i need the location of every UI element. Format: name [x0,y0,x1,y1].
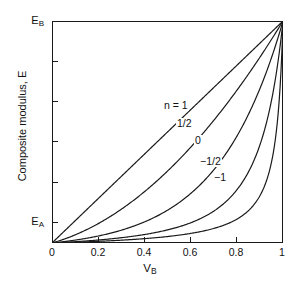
y-tick-3 [52,182,58,183]
x-ticklabel-0: 0 [32,246,72,258]
y-tick-0 [52,61,58,62]
x-ticklabel-1: 0.2 [78,246,118,258]
x-tick-1 [98,237,99,243]
y-tick-4 [52,222,58,223]
x-axis-title-subscript: B [151,266,157,276]
curve-label-neghalf: −1/2 [199,156,222,167]
x-tick-4 [236,237,237,243]
x-ticklabel-3: 0.6 [170,246,210,258]
x-tick-0 [52,237,53,243]
y-tick-2 [52,141,58,142]
y-label-ea-subscript: A [39,220,44,229]
composite-modulus-chart: 0 0.2 0.4 0.6 0.8 1 EB EA VB Composite m… [0,0,300,296]
curve-label-half: 1/2 [176,118,193,129]
curve-group [52,21,283,243]
curve-label-zero: 0 [194,135,202,146]
y-label-ea-text: E [31,215,38,227]
x-tick-5 [282,237,283,243]
x-axis-title-text: V [143,262,151,274]
y-tick-1 [52,101,58,102]
x-tick-3 [190,237,191,243]
curve-label-n1: n = 1 [163,100,189,111]
y-label-eb-text: E [31,14,38,26]
x-tick-2 [144,237,145,243]
y-label-eb-subscript: B [39,19,44,28]
y-axis-title: Composite modulus, E [16,26,28,226]
x-axis-title: VB [0,262,300,276]
curve-label-negone: −1 [213,172,227,183]
x-ticklabel-2: 0.4 [124,246,164,258]
x-ticklabel-5: 1 [262,246,300,258]
x-ticklabel-4: 0.8 [216,246,256,258]
